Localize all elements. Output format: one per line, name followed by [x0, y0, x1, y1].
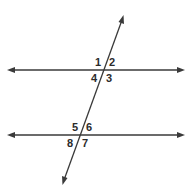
bottom-parallel-line: [7, 132, 185, 138]
transversal-line: [62, 15, 124, 185]
angle-label-6: 6: [86, 121, 92, 133]
angle-label-1: 1: [95, 56, 101, 68]
angle-label-7: 7: [82, 137, 88, 149]
arrow-left-icon: [7, 132, 15, 138]
arrow-right-icon: [177, 132, 185, 138]
arrow-right-icon: [177, 67, 185, 73]
parallel-lines-diagram: 1 2 3 4 5 6 7 8: [0, 0, 192, 195]
arrow-left-icon: [7, 67, 15, 73]
arrow-up-icon: [119, 15, 125, 24]
arrow-down-icon: [62, 176, 68, 185]
angle-label-8: 8: [67, 137, 73, 149]
angle-label-5: 5: [72, 121, 78, 133]
angle-label-2: 2: [109, 56, 115, 68]
angle-label-4: 4: [91, 72, 98, 84]
angle-label-3: 3: [106, 72, 112, 84]
